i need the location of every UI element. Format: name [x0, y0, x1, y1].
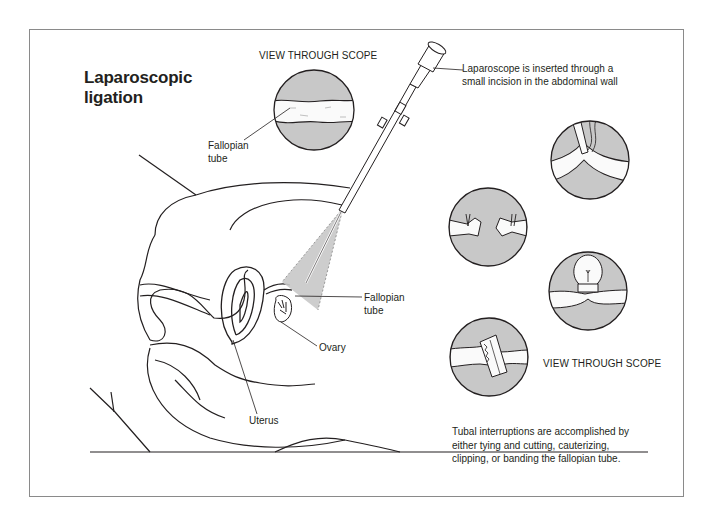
- note-line: either tying and cutting, cauterizing,: [452, 439, 629, 453]
- label-line: tube: [208, 152, 249, 165]
- note-line: small incision in the abdominal wall: [462, 75, 618, 88]
- note-line: Tubal interruptions are accomplished by: [452, 425, 629, 439]
- scope-view-tube: [244, 70, 360, 150]
- label-line: tube: [364, 304, 405, 317]
- ovary-label: Ovary: [319, 341, 346, 354]
- scope-view-tying-cutting: [449, 188, 527, 266]
- uterus-label: Uterus: [249, 414, 278, 427]
- fallopian-tube-label-top: Fallopian tube: [208, 139, 249, 165]
- laparoscope: [339, 40, 463, 213]
- scope-view-banding: [549, 252, 628, 330]
- scope-view-clipping: [450, 318, 528, 396]
- fallopian-tube-label-mid: Fallopian tube: [364, 291, 405, 317]
- tubal-interruption-note: Tubal interruptions are accomplished by …: [452, 425, 629, 466]
- laparoscope-note: Laparoscope is inserted through a small …: [462, 62, 618, 88]
- title-line-1: Laparoscopic: [84, 68, 192, 88]
- title-line-2: ligation: [84, 88, 192, 108]
- note-line: clipping, or banding the fallopian tube.: [452, 452, 629, 466]
- uterus-shape: [221, 267, 292, 344]
- view-through-scope-label-top: VIEW THROUGH SCOPE: [259, 50, 377, 61]
- ovary-shape: [274, 295, 291, 322]
- view-through-scope-label-right: VIEW THROUGH SCOPE: [543, 358, 661, 369]
- label-line: Fallopian: [208, 139, 249, 152]
- note-line: Laparoscope is inserted through a: [462, 62, 618, 75]
- figure-title: Laparoscopic ligation: [84, 68, 192, 108]
- scope-view-cauterizing: [548, 118, 632, 199]
- scope-light-cone: [282, 208, 343, 310]
- label-line: Fallopian: [364, 291, 405, 304]
